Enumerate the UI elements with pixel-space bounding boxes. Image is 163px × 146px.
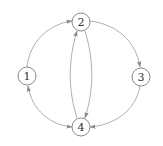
edge-2-to-3 <box>90 21 140 67</box>
node-label: 3 <box>138 71 145 84</box>
edge-4-to-2 <box>70 31 77 118</box>
edge-2-to-4 <box>85 31 92 118</box>
node-label: 2 <box>78 16 85 29</box>
graph-svg: 1 2 3 4 <box>0 0 163 146</box>
node-label: 4 <box>78 121 85 134</box>
node-2: 2 <box>72 13 90 31</box>
edge-3-to-4 <box>90 86 140 127</box>
node-3: 3 <box>132 68 150 86</box>
edge-1-to-2 <box>27 21 72 67</box>
node-1: 1 <box>18 67 36 85</box>
edge-1-to-4-bidirectional <box>28 86 72 127</box>
node-4: 4 <box>72 118 90 136</box>
node-label: 1 <box>24 70 31 83</box>
graph-diagram: 1 2 3 4 <box>0 0 163 146</box>
